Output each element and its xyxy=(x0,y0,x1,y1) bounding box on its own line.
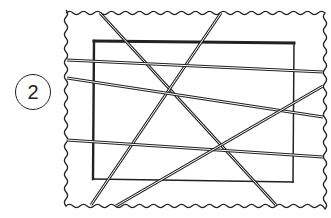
figure-drawing xyxy=(0,0,331,218)
figure-number-badge: 2 xyxy=(15,74,51,110)
crossing-line-5 xyxy=(67,140,323,157)
rect-bottom-edge xyxy=(93,179,293,182)
crossing-line-4 xyxy=(67,78,323,117)
crossing-line-3 xyxy=(67,60,323,72)
figure-number: 2 xyxy=(27,82,38,102)
